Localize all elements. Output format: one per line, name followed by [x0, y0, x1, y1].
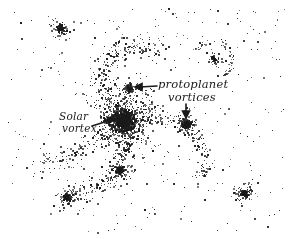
vortex-label: vortex: [62, 123, 97, 134]
annotation-arrows: [0, 0, 292, 239]
solar-vortex-diagram: protoplanet vortices Solar vortex: [0, 0, 292, 239]
protoplanet-label: protoplanet: [158, 79, 228, 91]
vortices-label: vortices: [168, 92, 216, 104]
solar-vortex-arrowhead: [107, 117, 116, 124]
protoplanet-arrowhead-upper: [135, 84, 142, 91]
solar-label: Solar: [59, 111, 88, 122]
protoplanet-arrowhead-lower: [183, 111, 190, 118]
